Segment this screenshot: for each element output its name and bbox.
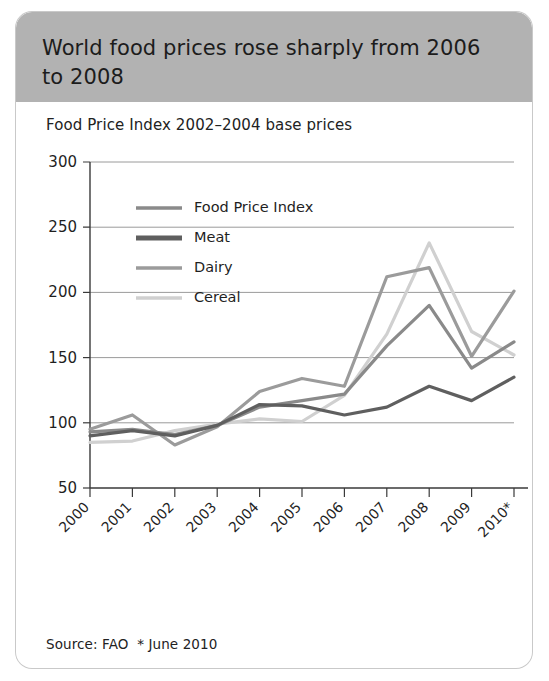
x-axis-tick-label: 2002 [140, 499, 177, 536]
y-axis-tick-label: 100 [48, 414, 77, 432]
y-axis-tick-label: 200 [48, 283, 77, 301]
chart-plot-area: 5010015020025030020002001200220032004200… [16, 140, 532, 640]
source-note: Source: FAO * June 2010 [46, 636, 217, 652]
series-line-meat [90, 377, 514, 436]
legend-label-food-price-index: Food Price Index [194, 199, 314, 215]
x-axis-tick-label: 2005 [268, 499, 305, 536]
y-axis-tick-label: 300 [48, 153, 77, 171]
series-line-food-price-index [90, 305, 514, 434]
legend-label-dairy: Dairy [194, 259, 233, 275]
x-axis-tick-label: 2008 [395, 499, 432, 536]
y-axis-tick-label: 150 [48, 349, 77, 367]
chart-subtitle: Food Price Index 2002–2004 base prices [46, 116, 352, 134]
x-axis-tick-label: 2006 [310, 499, 347, 536]
x-axis-tick-label: 2000 [56, 499, 93, 536]
y-axis-tick-label: 250 [48, 218, 77, 236]
x-axis-tick-label: 2001 [98, 499, 135, 536]
line-chart: 5010015020025030020002001200220032004200… [16, 140, 532, 640]
x-axis-tick-label: 2009 [437, 499, 474, 536]
x-axis-tick-label: 2003 [183, 499, 220, 536]
page-title: World food prices rose sharply from 2006… [42, 34, 492, 92]
legend-label-cereal: Cereal [194, 289, 241, 305]
x-axis-tick-label: 2004 [225, 499, 262, 536]
x-axis-tick-label: 2010* [475, 499, 516, 540]
legend-label-meat: Meat [194, 229, 230, 245]
series-line-dairy [90, 268, 514, 445]
chart-card: World food prices rose sharply from 2006… [16, 12, 532, 668]
y-axis-tick-label: 50 [58, 479, 77, 497]
x-axis-tick-label: 2007 [352, 499, 389, 536]
series-line-cereal [90, 243, 514, 443]
